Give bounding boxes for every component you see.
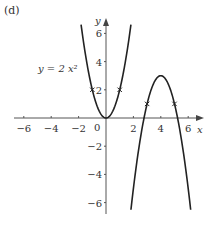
x-tick-label: −2 <box>71 123 86 134</box>
curves <box>81 25 191 210</box>
y-tick-label: −4 <box>87 169 102 180</box>
x-tick-labels: −6−4−2246 <box>16 123 191 134</box>
y-axis-arrow-icon <box>103 18 109 26</box>
x-tick-label: 2 <box>130 123 136 134</box>
y-tick-label: −2 <box>87 141 102 152</box>
origin-label: 0 <box>94 122 100 133</box>
x-tick-label: −6 <box>16 123 31 134</box>
equation-label: y = 2 x² <box>37 63 78 74</box>
y-tick-labels: 642−2−4−6 <box>87 28 102 208</box>
x-axis-label: x <box>197 124 203 135</box>
x-tick-label: 6 <box>185 123 191 134</box>
x-tick-label: 4 <box>158 123 164 134</box>
y-tick-label: 4 <box>96 57 102 68</box>
x-axis-arrow-icon <box>196 115 204 121</box>
chart-figure: (d) x y 0 −6−4−2246 642−2−4−6 y = 2 x² <box>0 0 213 229</box>
y-tick-label: 6 <box>96 28 102 39</box>
panel-label: (d) <box>4 4 20 17</box>
y-tick-label: 2 <box>96 85 102 96</box>
point-markers <box>90 88 177 107</box>
y-tick-label: −6 <box>87 198 102 209</box>
x-tick-label: −4 <box>44 123 59 134</box>
y-axis-label: y <box>94 15 101 26</box>
curve-transformed-parabola <box>131 76 191 210</box>
